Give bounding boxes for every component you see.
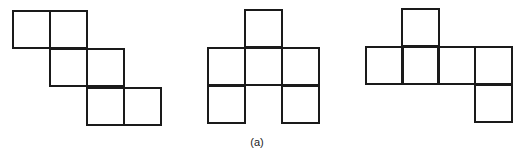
arch-net	[208, 10, 319, 123]
cube-nets-diagram	[0, 0, 514, 157]
net-square	[208, 86, 245, 123]
net-square	[282, 86, 319, 123]
figure-caption: (a)	[0, 136, 514, 148]
net-square	[87, 49, 124, 86]
net-square	[475, 47, 512, 84]
net-square	[245, 48, 282, 85]
net-square	[50, 11, 87, 48]
net-square	[475, 85, 512, 122]
net-square	[245, 10, 282, 47]
net-square	[402, 9, 439, 46]
row-net	[366, 9, 512, 122]
net-square	[124, 88, 161, 125]
net-square	[87, 88, 124, 125]
net-square	[438, 47, 475, 84]
net-square	[50, 49, 87, 86]
net-square	[208, 48, 245, 85]
staircase-net	[13, 11, 161, 125]
net-square	[282, 48, 319, 85]
net-square	[366, 47, 403, 84]
net-square	[402, 47, 439, 84]
net-square	[13, 11, 50, 48]
